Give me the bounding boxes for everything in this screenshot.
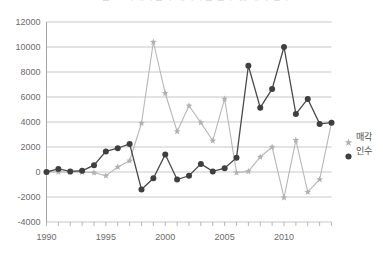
y-axis-tick-label: -4000: [17, 217, 40, 227]
star-icon: [344, 133, 353, 142]
x-axis-tick-label: 1995: [96, 232, 116, 242]
legend-item-insu[interactable]: 인수: [344, 144, 383, 158]
data-point-insu: [150, 175, 156, 181]
data-point-insu: [305, 96, 311, 102]
data-point-maegak: [138, 120, 145, 127]
y-axis-tick-label: 6000: [20, 92, 40, 102]
data-point-maegak: [174, 128, 181, 135]
data-point-insu: [186, 173, 192, 179]
series-line-insu: [47, 47, 332, 190]
data-point-insu: [281, 44, 287, 50]
line-chart-plot: -4000-2000020004000600080001000012000199…: [0, 0, 383, 276]
y-axis-tick-label: 4000: [20, 117, 40, 127]
data-point-insu: [329, 120, 335, 126]
data-point-maegak: [91, 169, 98, 176]
data-point-maegak: [233, 169, 240, 176]
y-axis-tick-label: 12000: [15, 17, 40, 27]
data-point-insu: [103, 148, 109, 154]
data-point-insu: [79, 168, 85, 174]
data-point-insu: [67, 168, 73, 174]
chart-container: 그림 4. 국내기업의 해외기업 인수 및 매각 건수 -4000-200002…: [0, 0, 383, 276]
x-axis-tick-label: 2005: [215, 232, 235, 242]
data-point-insu: [139, 187, 145, 193]
x-axis-tick-label: 1990: [36, 232, 56, 242]
data-point-insu: [127, 141, 133, 147]
y-axis-tick-label: 10000: [15, 42, 40, 52]
data-point-insu: [234, 155, 240, 161]
data-point-insu: [210, 168, 216, 174]
data-point-insu: [162, 152, 168, 158]
data-point-insu: [91, 162, 97, 168]
chart-legend: 매각 인수: [344, 130, 383, 158]
data-point-insu: [317, 121, 323, 127]
legend-item-maegak[interactable]: 매각: [344, 130, 383, 144]
data-point-insu: [293, 111, 299, 117]
data-point-maegak: [126, 157, 133, 164]
y-axis-tick-label: 2000: [20, 142, 40, 152]
x-axis-tick-label: 2000: [155, 232, 175, 242]
data-point-insu: [55, 166, 61, 172]
data-point-insu: [269, 86, 275, 92]
data-point-insu: [245, 63, 251, 69]
data-point-maegak: [209, 137, 216, 144]
data-point-insu: [257, 105, 263, 111]
legend-label-insu: 인수: [356, 146, 372, 156]
legend-label-maegak: 매각: [356, 132, 372, 142]
y-axis-tick-label: 8000: [20, 67, 40, 77]
data-point-insu: [174, 177, 180, 183]
data-point-insu: [222, 165, 228, 171]
data-point-maegak: [162, 90, 169, 97]
x-axis-tick-label: 2010: [274, 232, 294, 242]
data-point-maegak: [186, 102, 193, 109]
data-point-insu: [198, 161, 204, 167]
y-axis-tick-label: 0: [35, 167, 40, 177]
data-point-maegak: [281, 194, 288, 201]
data-point-insu: [115, 145, 121, 151]
y-axis-tick-label: -2000: [17, 192, 40, 202]
data-point-insu: [44, 169, 50, 175]
data-point-maegak: [102, 172, 109, 179]
circle-icon: [344, 147, 353, 156]
